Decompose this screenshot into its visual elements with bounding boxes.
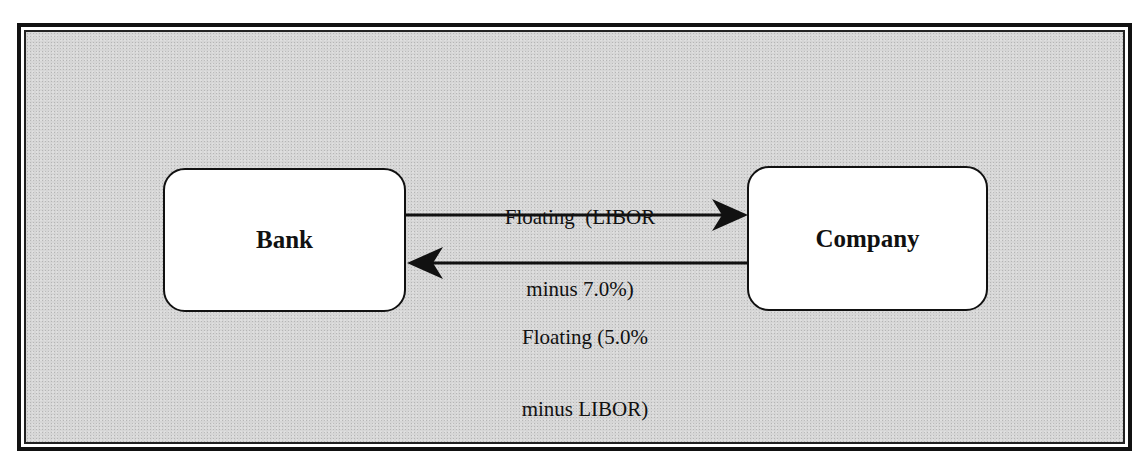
edge-label-bottom: Floating (5.0% minus LIBOR) (485, 277, 685, 445)
edge-label-bottom-line2: minus LIBOR) (485, 397, 685, 421)
edge-label-top-line1: Floating (LIBOR (480, 205, 680, 229)
edge-label-bottom-line1: Floating (5.0% (485, 325, 685, 349)
